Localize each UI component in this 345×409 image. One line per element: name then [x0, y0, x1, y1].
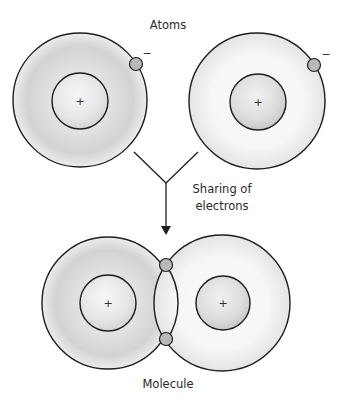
right-electron-minus-icon: − [321, 48, 330, 61]
right-atom-electron [308, 59, 321, 72]
atoms-title: Atoms [150, 18, 186, 32]
atom-sharing-diagram: Atoms + − + − Sharing of electrons + + [0, 0, 345, 409]
arrow-right-arm [166, 152, 198, 183]
molecule-title: Molecule [142, 377, 193, 391]
arrow-left-arm [134, 152, 166, 183]
shared-electron-bottom [160, 333, 173, 346]
left-nucleus-plus-icon: + [75, 95, 84, 108]
left-atom: + − [13, 33, 152, 167]
left-atom-electron [130, 58, 143, 71]
molecule: + + [42, 235, 290, 371]
molecule-left-plus-icon: + [103, 297, 112, 310]
process-label-line2: electrons [196, 199, 249, 213]
arrow-head-icon [161, 226, 171, 235]
right-nucleus-plus-icon: + [253, 96, 262, 109]
merge-arrow [134, 152, 198, 235]
right-atom: + − [189, 33, 331, 169]
process-label-line1: Sharing of [193, 182, 253, 196]
left-electron-minus-icon: − [142, 47, 151, 60]
molecule-right-plus-icon: + [218, 297, 227, 310]
shared-electron-top [160, 259, 173, 272]
